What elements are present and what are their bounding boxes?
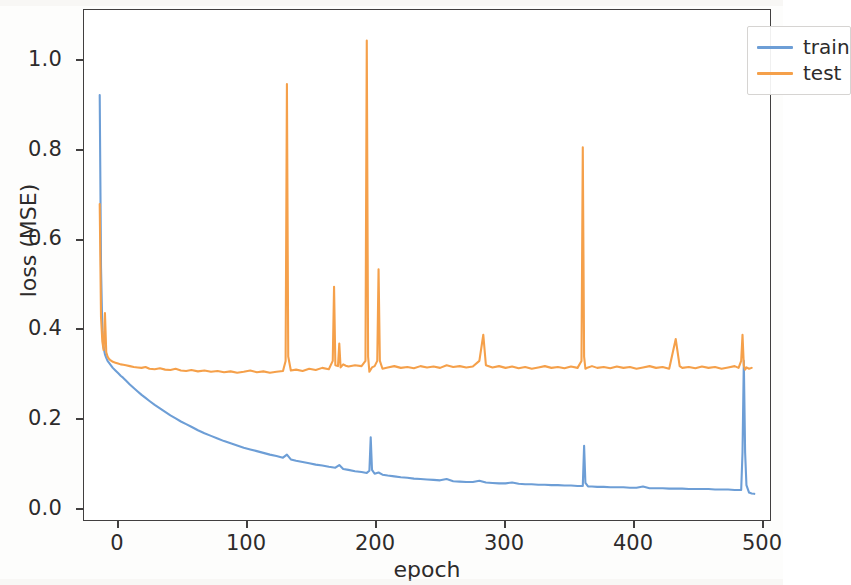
legend: train test [747, 26, 851, 95]
legend-swatch-test [757, 72, 793, 75]
scan-artifact [0, 0, 783, 6]
x-tick-mark [375, 521, 377, 528]
y-tick-mark [76, 328, 83, 330]
legend-swatch-train [757, 46, 793, 49]
x-tick-label: 200 [355, 531, 395, 555]
x-tick-label: 100 [226, 531, 266, 555]
x-tick-label: 500 [742, 531, 782, 555]
x-tick-mark [762, 521, 764, 528]
x-axis-label: epoch [83, 557, 771, 582]
x-tick-mark [633, 521, 635, 528]
y-tick-mark [76, 418, 83, 420]
x-tick-label: 400 [613, 531, 653, 555]
line-series-train [100, 95, 755, 494]
legend-item-test: test [757, 60, 841, 86]
line-series-test [100, 41, 752, 373]
series-lines [84, 10, 770, 520]
legend-label-train: train [803, 37, 850, 57]
y-tick-mark [76, 508, 83, 510]
x-tick-label: 0 [110, 531, 123, 555]
y-axis-label: loss (MSE) [16, 41, 41, 441]
y-tick-mark [76, 59, 83, 61]
legend-item-train: train [757, 34, 841, 60]
x-tick-mark [504, 521, 506, 528]
y-tick-label: 0.0 [28, 496, 62, 520]
y-tick-mark [76, 149, 83, 151]
x-tick-label: 300 [484, 531, 524, 555]
y-tick-mark [76, 239, 83, 241]
x-tick-mark [117, 521, 119, 528]
x-tick-mark [246, 521, 248, 528]
legend-label-test: test [803, 63, 841, 83]
plot-area: train test [83, 9, 771, 521]
